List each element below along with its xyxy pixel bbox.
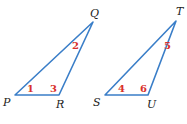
angle-label-2: 2 [72,40,79,51]
vertex-label-p: P [2,96,11,109]
vertex-label-s: S [93,96,101,109]
vertex-label-t: T [176,5,185,18]
angle-label-3: 3 [50,83,57,94]
vertex-label-u: U [147,98,157,111]
triangles-diagram: P Q R S T U 1 2 3 4 5 6 [0,0,187,124]
vertex-label-r: R [55,98,64,111]
angle-label-1: 1 [27,83,34,94]
angle-label-4: 4 [118,83,125,94]
vertex-label-q: Q [90,7,99,20]
angle-label-6: 6 [140,83,147,94]
angle-label-5: 5 [164,40,171,51]
